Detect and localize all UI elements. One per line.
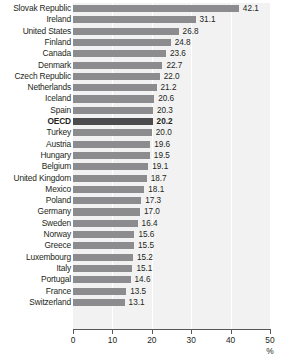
bar [73,73,160,80]
bar-value-label: 18.1 [148,184,164,195]
bar [73,141,150,148]
bar [73,107,153,114]
bar-fill [73,299,125,306]
category-label: Hungary [0,150,71,161]
bar-fill [73,129,152,136]
bar-row: United States26.8 [0,26,289,37]
category-label: Czech Republic [0,71,71,82]
x-axis-tick [191,330,192,334]
bar-fill [73,28,179,35]
category-label: Poland [0,195,71,206]
bar-value-label: 16.4 [142,218,158,229]
bar-value-label: 19.6 [154,139,170,150]
bar-row: Greece15.5 [0,240,289,251]
bar-fill [73,231,134,238]
bar [73,254,133,261]
bar-row: Belgium19.1 [0,161,289,172]
bar-value-label: 15.1 [136,263,152,274]
bar-fill [73,242,134,249]
x-axis-tick-label: 20 [137,335,167,345]
axis-unit-label: % [258,346,282,356]
bar-row: Netherlands21.2 [0,82,289,93]
bar-row: Portugal14.6 [0,274,289,285]
x-axis-tick-label: 40 [216,335,246,345]
category-label: Germany [0,206,71,217]
bar-row: United Kingdom18.7 [0,173,289,184]
bar-fill [73,141,150,148]
bar-row: Ireland31.1 [0,14,289,25]
bar [73,163,148,170]
bar-fill [73,84,157,91]
bar-row: Poland17.3 [0,195,289,206]
bar-value-label: 22.0 [164,71,180,82]
bar [73,39,171,46]
bar-value-label: 31.1 [200,14,216,25]
bar [73,16,196,23]
bar [73,208,140,215]
category-label: Portugal [0,274,71,285]
bar [73,186,144,193]
bar [73,62,162,69]
x-axis-line [73,329,271,330]
bar [73,175,147,182]
bar [73,242,134,249]
bar-fill [73,276,131,283]
bar [73,84,157,91]
bar-row: Germany17.0 [0,206,289,217]
bar-row: Iceland20.6 [0,93,289,104]
bar-value-label: 19.5 [154,150,170,161]
x-axis-tick-label: 0 [58,335,88,345]
category-label: Canada [0,48,71,59]
category-label: Ireland [0,14,71,25]
bar-value-label: 17.3 [145,195,161,206]
bar-row: OECD20.2 [0,116,289,127]
bar-fill [73,50,166,57]
bar-row: Mexico18.1 [0,184,289,195]
bar-fill [73,208,140,215]
category-label: France [0,286,71,297]
category-label: Sweden [0,218,71,229]
bar-value-label: 15.6 [138,229,154,240]
bar-row: Switzerland13.1 [0,297,289,308]
bar-value-label: 15.5 [138,240,154,251]
bar-value-label: 13.1 [129,297,145,308]
bar-row: Austria19.6 [0,139,289,150]
bar-fill [73,220,138,227]
category-label: United States [0,26,71,37]
bar-value-label: 23.6 [170,48,186,59]
bar-fill [73,107,153,114]
bar-fill [73,39,171,46]
bar-row: Luxembourg15.2 [0,252,289,263]
bar-fill [73,197,141,204]
bar [73,288,126,295]
bar-row: Hungary19.5 [0,150,289,161]
bar-value-label: 19.1 [152,161,168,172]
bar [73,276,131,283]
bar [73,95,154,102]
bar-value-label: 14.6 [135,274,151,285]
bar-row: Sweden16.4 [0,218,289,229]
bar-value-label: 20.6 [158,93,174,104]
bar-value-label: 20.3 [157,105,173,116]
category-label: Switzerland [0,297,71,308]
x-axis-tick-label: 10 [97,335,127,345]
bar [73,118,153,125]
x-axis-tick [152,330,153,334]
bar-row: Canada23.6 [0,48,289,59]
x-axis-tick-label: 50 [255,335,285,345]
x-axis-tick [112,330,113,334]
bar-fill [73,163,148,170]
category-label: Austria [0,139,71,150]
bar [73,299,125,306]
bar-row: Turkey20.0 [0,127,289,138]
bar-value-label: 22.7 [166,60,182,71]
bar-row: France13.5 [0,286,289,297]
bar-row: Czech Republic22.0 [0,71,289,82]
bar [73,129,152,136]
category-label: Turkey [0,127,71,138]
bar-value-label: 13.5 [130,286,146,297]
category-label: Finland [0,37,71,48]
category-label: Luxembourg [0,252,71,263]
bar [73,231,134,238]
bar-fill [73,175,147,182]
